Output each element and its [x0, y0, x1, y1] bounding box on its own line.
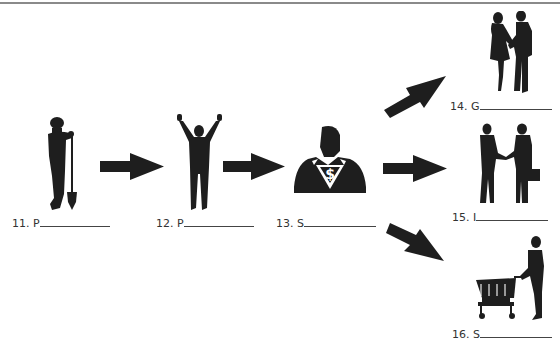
answer-label-15: 15. I: [452, 210, 548, 224]
item-number: 14.: [450, 100, 468, 113]
person-with-shovel-icon: [42, 116, 82, 212]
answer-label-16: 16. S: [452, 327, 552, 341]
answer-blank[interactable]: [184, 216, 254, 227]
answer-blank[interactable]: [476, 210, 548, 221]
arrow-down-right-icon: [386, 223, 444, 261]
item-letter: P: [177, 217, 184, 230]
shopper-with-cart-icon: [474, 236, 546, 322]
arrow-right-icon: [383, 155, 447, 182]
item-number: 12.: [156, 217, 174, 230]
svg-text:$: $: [325, 166, 335, 182]
item-letter: S: [473, 328, 480, 341]
item-number: 11.: [12, 217, 30, 230]
item-letter: S: [297, 217, 304, 230]
person-arms-raised-icon: [174, 112, 224, 214]
answer-label-13: 13. S: [276, 216, 376, 230]
couple-holding-hands-icon: [488, 11, 536, 93]
business-handshake-icon: [478, 123, 542, 205]
answer-label-12: 12. P: [156, 216, 254, 230]
answer-label-14: 14. G: [450, 99, 552, 113]
superhero-businessman-dollar-icon: $: [292, 125, 368, 200]
answer-label-11: 11. P: [12, 216, 110, 230]
answer-blank[interactable]: [304, 216, 376, 227]
arrow-right-icon: [100, 153, 164, 180]
arrow-right-icon: [223, 153, 285, 180]
item-number: 15.: [452, 211, 470, 224]
answer-blank[interactable]: [40, 216, 110, 227]
answer-blank[interactable]: [480, 327, 552, 338]
arrow-up-right-icon: [384, 76, 446, 118]
item-letter: G: [471, 100, 480, 113]
top-rule: [0, 2, 560, 4]
item-letter: P: [33, 217, 40, 230]
answer-blank[interactable]: [480, 99, 552, 110]
item-number: 16.: [452, 328, 470, 341]
item-number: 13.: [276, 217, 294, 230]
